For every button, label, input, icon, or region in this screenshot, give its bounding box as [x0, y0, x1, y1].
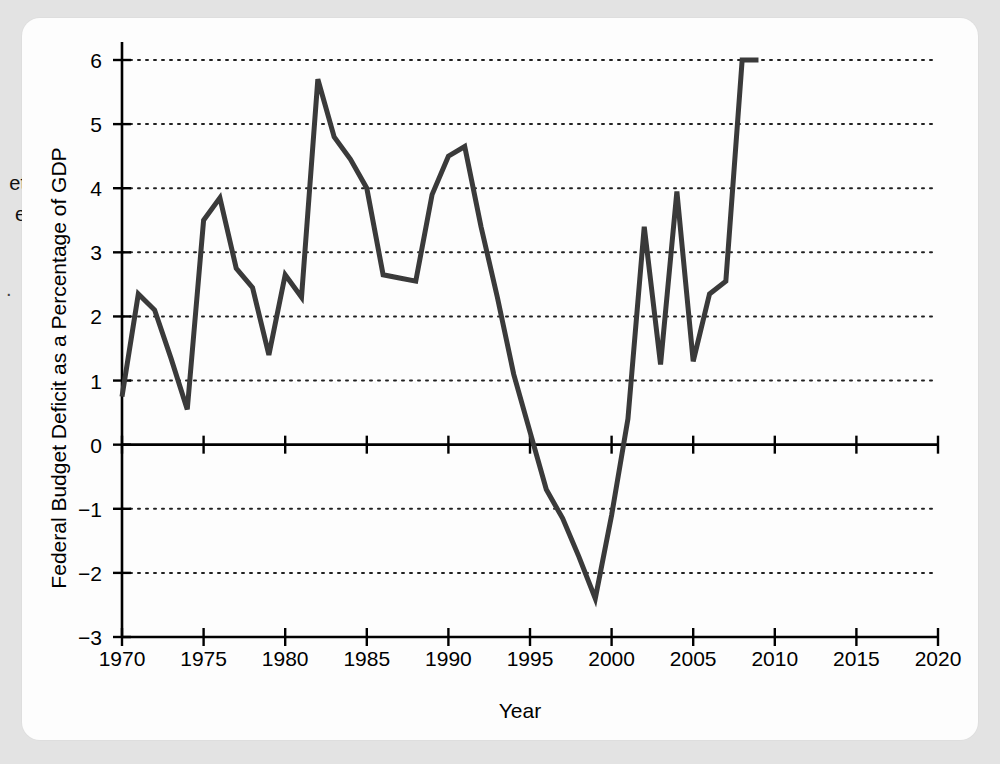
grid-lines — [122, 60, 938, 573]
x-tick-label: 1990 — [425, 647, 472, 670]
x-tick-label: 1970 — [99, 647, 146, 670]
x-tick-label: 2005 — [670, 647, 717, 670]
page-bleed-marker: . — [6, 278, 12, 301]
x-tick-label: 2020 — [915, 647, 962, 670]
y-tick-labels: −3−2−10123456 — [78, 49, 102, 649]
y-tick-label: 5 — [90, 113, 102, 136]
y-tick-label: 0 — [90, 434, 102, 457]
budget-deficit-line-chart: −3−2−10123456 19701975198019851990199520… — [22, 18, 978, 740]
y-tick-label: 3 — [90, 241, 102, 264]
chart-figure: −3−2−10123456 19701975198019851990199520… — [22, 18, 978, 740]
x-axis-title: Year — [499, 699, 541, 722]
chart-axes — [122, 42, 938, 637]
y-tick-label: 6 — [90, 49, 102, 72]
y-tick-label: 2 — [90, 305, 102, 328]
x-tick-label: 2010 — [751, 647, 798, 670]
y-tick-label: −2 — [78, 562, 102, 585]
x-tick-label: 1975 — [180, 647, 227, 670]
x-tick-label: 1985 — [343, 647, 390, 670]
x-tick-labels: 1970197519801985199019952000200520102015… — [99, 647, 962, 670]
x-tick-label: 1980 — [262, 647, 309, 670]
y-axis-title: Federal Budget Deficit as a Percentage o… — [47, 147, 70, 588]
y-tick-label: 4 — [90, 177, 102, 200]
x-tick-label: 2015 — [833, 647, 880, 670]
y-tick-label: −1 — [78, 498, 102, 521]
y-tick-label: 1 — [90, 370, 102, 393]
y-tick-label: −3 — [78, 626, 102, 649]
deficit-series-line — [122, 60, 758, 599]
x-tick-label: 1995 — [507, 647, 554, 670]
axis-ticks — [113, 60, 938, 646]
x-tick-label: 2000 — [588, 647, 635, 670]
